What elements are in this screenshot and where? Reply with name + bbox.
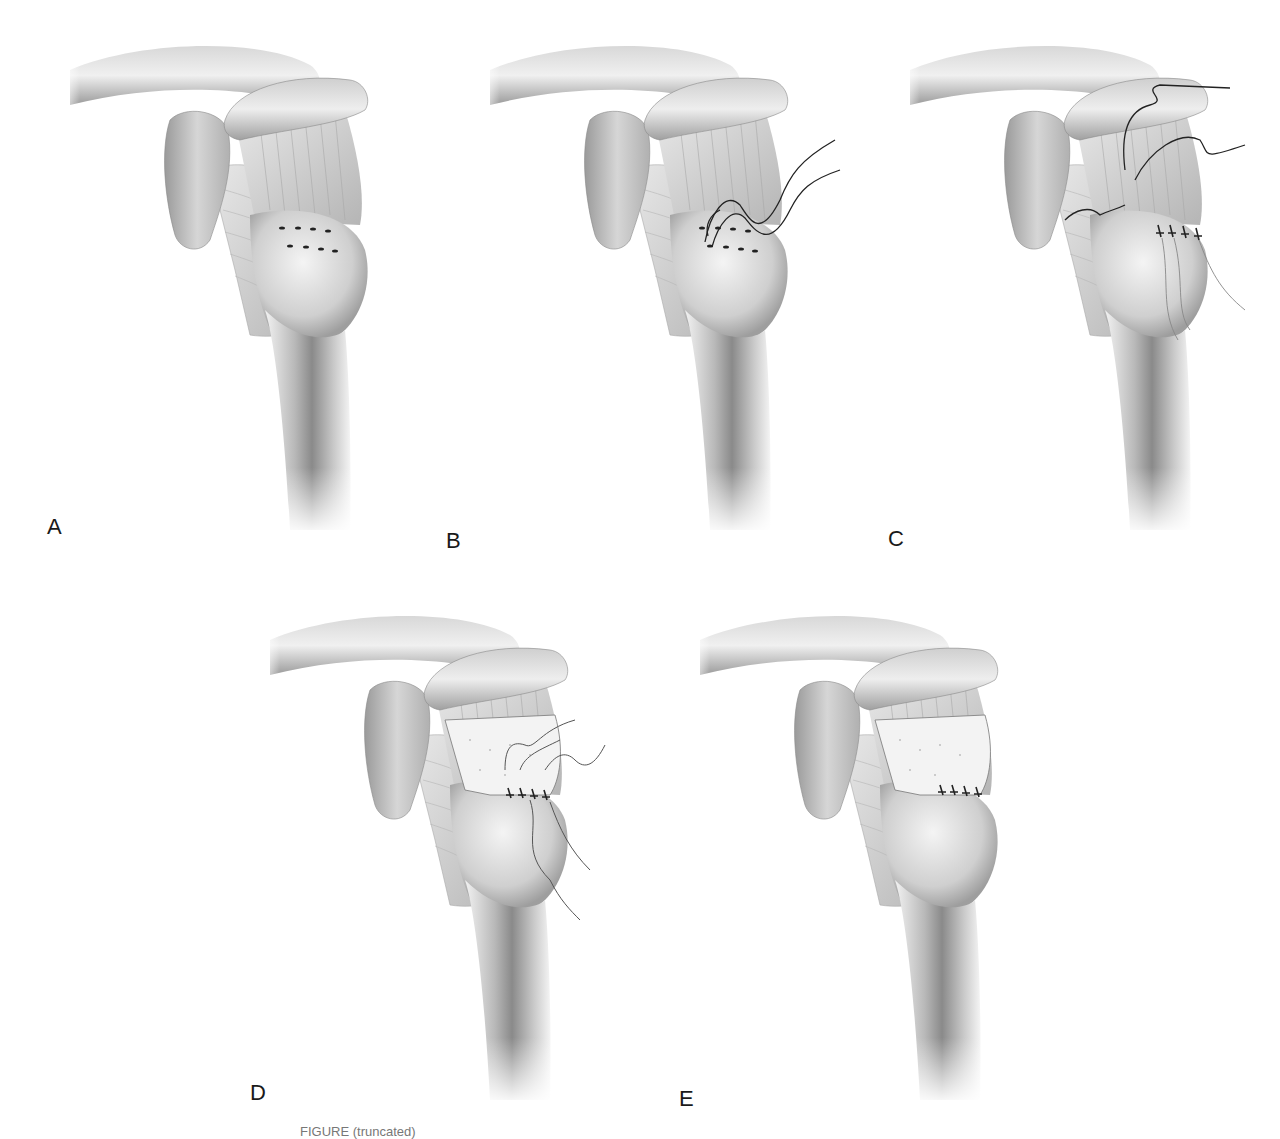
figure-caption: FIGURE (truncated) (300, 1124, 416, 1139)
panel-b (480, 10, 860, 550)
panel-label-b: B (446, 528, 461, 554)
panel-e (690, 580, 1070, 1100)
panel-label-e: E (679, 1086, 694, 1112)
panel-label-d: D (250, 1080, 266, 1106)
panel-label-c: C (888, 526, 904, 552)
shoulder-illustration-b (480, 10, 860, 550)
shoulder-illustration-e (690, 580, 1070, 1100)
panel-d (260, 580, 640, 1100)
shoulder-illustration-d (260, 580, 640, 1100)
shoulder-illustration-c (900, 10, 1280, 550)
panel-label-a: A (47, 514, 62, 540)
panel-a (60, 10, 390, 540)
shoulder-illustration-a (60, 10, 390, 540)
panel-c (900, 10, 1280, 550)
